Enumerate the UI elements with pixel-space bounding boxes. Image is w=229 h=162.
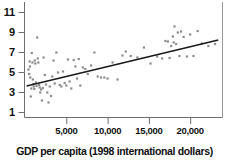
scatter-point — [175, 43, 177, 45]
scatter-point — [182, 36, 184, 38]
y-tick-label: 1 — [1, 107, 15, 118]
y-axis-ticks — [19, 13, 25, 113]
scatter-point — [93, 51, 95, 53]
scatter-point — [30, 95, 32, 97]
scatter-point — [79, 84, 81, 86]
trendline-path — [27, 40, 219, 86]
scatter-point — [74, 65, 76, 67]
scatter-point — [57, 71, 59, 73]
x-tick-label: 20,000 — [165, 126, 215, 136]
scatter-point — [100, 76, 102, 78]
scatter-point — [178, 55, 180, 57]
scatter-point — [37, 61, 39, 63]
scatter-point — [33, 88, 35, 90]
scatter-point — [192, 55, 194, 57]
scatter-point — [41, 99, 43, 101]
scatter-point — [172, 35, 174, 37]
scatter-point — [31, 61, 33, 63]
x-axis-title: GDP per capita (1998 international dolla… — [0, 145, 229, 157]
scatter-point — [29, 60, 31, 62]
scatter-point — [87, 73, 89, 75]
scatter-point — [46, 91, 48, 93]
y-tick-label: 5 — [1, 67, 15, 78]
scatter-point — [67, 58, 69, 60]
y-tick-label: 11 — [1, 7, 15, 18]
scatter-point — [170, 45, 172, 47]
scatter-point — [27, 68, 29, 70]
plot-canvas — [0, 0, 229, 162]
scatter-point — [33, 85, 35, 87]
scatter-point — [173, 41, 175, 43]
regression-trendline — [27, 40, 219, 86]
scatter-point — [111, 61, 113, 63]
scatter-point — [214, 43, 216, 45]
scatter-point — [42, 56, 44, 58]
scatter-point — [156, 55, 158, 57]
scatter-point — [29, 65, 31, 67]
scatter-point — [161, 57, 163, 59]
scatter-point — [82, 66, 84, 68]
scatter-point — [78, 58, 80, 60]
scatter-point — [76, 77, 78, 79]
scatter-point — [32, 78, 34, 80]
scatter-point — [54, 82, 56, 84]
scatter-point — [116, 78, 118, 80]
scatter-point — [42, 87, 44, 89]
scatter-point — [177, 31, 179, 33]
scatter-point — [173, 25, 175, 27]
scatter-point — [189, 33, 191, 35]
scatter-point — [36, 36, 38, 38]
scatter-point — [143, 46, 145, 48]
scatter-point — [38, 84, 40, 86]
scatter-point — [30, 87, 32, 89]
scatter-point — [186, 55, 188, 57]
scatter-point — [207, 45, 209, 47]
scatter-point — [35, 85, 37, 87]
scatter-point — [65, 84, 67, 86]
scatter-point — [34, 62, 36, 64]
scatter-point — [47, 101, 49, 103]
scatter-point — [52, 59, 54, 61]
scatter-point — [84, 68, 86, 70]
scatter-point — [90, 64, 92, 66]
y-tick-label: 9 — [1, 27, 15, 38]
scatter-point — [197, 30, 199, 32]
scatter-point — [49, 85, 51, 87]
scatter-point — [45, 83, 47, 85]
scatter-point — [34, 59, 36, 61]
scatter-point — [136, 56, 138, 58]
y-tick-label: 3 — [1, 87, 15, 98]
scatter-point — [149, 62, 151, 64]
scatter-point — [69, 80, 71, 82]
scatter-point — [60, 85, 62, 87]
scatter-point — [70, 87, 72, 89]
scatter-chart-figure: 1357911 5,00010,00015,00020,000 GDP per … — [0, 0, 229, 162]
scatter-point — [130, 55, 132, 57]
scatter-point — [103, 76, 105, 78]
scatter-point — [39, 91, 41, 93]
scatter-point — [62, 70, 64, 72]
scatter-point — [168, 57, 170, 59]
scatter-point — [180, 30, 182, 32]
scatter-point — [31, 52, 33, 54]
scatter-point-group — [27, 25, 216, 103]
scatter-point — [107, 77, 109, 79]
scatter-point — [39, 86, 41, 88]
scatter-point — [29, 76, 31, 78]
scatter-point — [121, 54, 123, 56]
scatter-point — [73, 59, 75, 61]
y-tick-label: 7 — [1, 47, 15, 58]
scatter-point — [55, 51, 57, 53]
scatter-point — [37, 57, 39, 59]
scatter-point — [44, 74, 46, 76]
scatter-point — [28, 73, 30, 75]
x-axis-ticks — [67, 118, 191, 125]
scatter-point — [167, 40, 169, 42]
scatter-point — [64, 82, 66, 84]
scatter-point — [97, 75, 99, 77]
scatter-point — [164, 40, 166, 42]
scatter-point — [50, 95, 52, 97]
scatter-point — [125, 50, 127, 52]
scatter-point — [51, 75, 53, 77]
